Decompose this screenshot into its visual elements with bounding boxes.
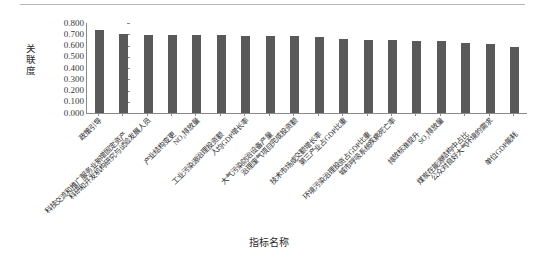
x-axis-title: 指标名称	[0, 234, 538, 249]
chart-figure: 关联度 0.8000.7000.6000.5000.4000.3000.2000…	[0, 0, 538, 257]
x-axis-tick-mark	[220, 113, 221, 116]
x-axis-tick-mark	[513, 113, 514, 116]
y-axis-tick-labels: 0.8000.7000.6000.5000.4000.3000.2000.100…	[44, 16, 84, 120]
y-axis-tick-label: 0.200	[64, 86, 84, 95]
top-divider-rule	[20, 4, 525, 5]
x-axis-category-label-text: 城市呼吸系统疾病死亡率	[337, 117, 397, 177]
y-axis-tick-label: 0.500	[64, 52, 84, 61]
y-axis-tick-label: 0.400	[64, 64, 84, 73]
x-axis-tick-mark	[367, 113, 368, 116]
bar	[95, 30, 104, 113]
x-axis-category-label-text: 政策引导	[78, 117, 103, 142]
y-axis-tick-label: 0.700	[64, 30, 84, 39]
x-axis-tick-mark	[415, 113, 416, 116]
y-axis-tick-label: 0.300	[64, 75, 84, 84]
x-axis-category-label-text: 排放标准提升	[386, 131, 421, 166]
x-axis-category-label-text: 产业结构变更	[142, 131, 177, 166]
x-axis-tick-mark	[171, 113, 172, 116]
x-axis-category-labels: 政策引导科技交流和推广服务业新增固定资产科研和开发机构研究与试验发展人员产业结构…	[86, 117, 526, 217]
x-axis-tick-mark	[318, 113, 319, 116]
x-axis-tick-mark	[122, 113, 123, 116]
y-axis-tick-label: 0.800	[64, 19, 84, 28]
y-axis-title: 关联度	[24, 44, 38, 77]
x-axis-category-label-text: 科研和开发机构研究与试验发展人员	[68, 117, 153, 202]
x-axis-category-label-text: 单位GDP能耗	[484, 131, 520, 167]
y-axis-tick-label: 0.600	[64, 41, 84, 50]
x-axis-tick-mark	[464, 113, 465, 116]
bar-slot	[87, 23, 111, 113]
x-axis-category-label-text: 科技交流和推广服务业新增固定资产	[43, 131, 128, 216]
y-axis-tick-label: 0.100	[64, 97, 84, 106]
x-axis-tick-mark	[269, 113, 270, 116]
y-axis-tick-label: 0.000	[64, 109, 84, 118]
